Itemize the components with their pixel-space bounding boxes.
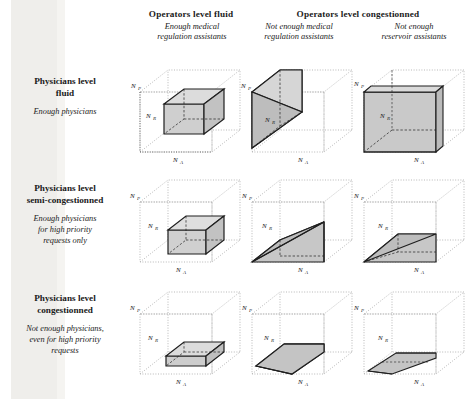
axis-label-na: N <box>172 156 178 164</box>
row-label-semi-title: Physicians level semi-congestionned <box>2 183 128 206</box>
cube-diagram-r2c3: NP NR NA <box>352 166 472 274</box>
cube-diagram-r3c1: NP NR NA <box>128 278 248 386</box>
axis-sub-np: P <box>248 308 252 313</box>
axis-sub-np: P <box>248 196 252 201</box>
column-group-header-congestionned-label: Operators level congestionned <box>243 9 473 20</box>
axis-sub-na: A <box>304 382 309 386</box>
axis-label-na: N <box>175 266 181 274</box>
axis-label-np: N <box>129 192 135 200</box>
axis-sub-na: A <box>182 270 187 274</box>
axis-label-na: N <box>175 378 181 386</box>
diagram-cell-r1c3: NP NR NA <box>352 56 472 164</box>
solid-region-slab <box>166 342 224 366</box>
axis-label-nr: N <box>377 334 383 342</box>
axis-sub-np: P <box>360 196 364 201</box>
axis-label-np: N <box>353 304 359 312</box>
axis-label-nr: N <box>377 222 383 230</box>
solid-region-wedge <box>252 70 302 148</box>
axis-sub-np: P <box>136 196 140 201</box>
axis-label-np: N <box>353 80 359 88</box>
column-subtitle-1: Enough medical regulation assistants <box>136 22 248 42</box>
solid-region-box <box>168 216 224 254</box>
cube-diagram-r3c2: NP NR NA <box>240 278 360 386</box>
row-label-semi-title-line2: semi-congestionned <box>2 195 128 207</box>
axis-label-nr: N <box>264 116 270 124</box>
row-label-congested-sub: Not enough physicians, even for high pri… <box>2 324 128 356</box>
diagram-cell-r3c2: NP NR NA <box>240 278 360 386</box>
axis-sub-np: P <box>136 308 140 313</box>
row-label-congested-title-line2: congestionned <box>2 305 128 317</box>
diagram-cell-r1c2: NP NR NA <box>240 56 360 164</box>
axis-label-na: N <box>297 266 303 274</box>
column-subtitle-2-line1: Not enough medical <box>243 22 355 32</box>
axis-sub-na: A <box>420 270 425 274</box>
axis-label-np: N <box>353 192 359 200</box>
axis-sub-nr: R <box>152 116 156 121</box>
axis-label-nr: N <box>145 112 151 120</box>
axis-sub-np: P <box>360 84 364 89</box>
solid-region-box <box>164 89 224 134</box>
row-label-semi-sub: Enough physicians for high priority requ… <box>2 214 128 246</box>
axis-sub-np: P <box>247 86 251 91</box>
axis-sub-na: A <box>304 160 309 164</box>
column-subtitle-1-line2: regulation assistants <box>136 32 248 42</box>
column-group-header-congestionned: Operators level congestionned <box>243 9 473 20</box>
row-label-congested-sub-line1: Not enough physicians, <box>2 324 128 335</box>
row-label-fluid-sub-line1: Enough physicians <box>2 107 128 118</box>
column-group-header-fluid: Operators level fluid <box>136 9 246 20</box>
row-label-fluid-title: Physicians level fluid <box>2 76 128 99</box>
solid-region-sheet <box>256 344 324 374</box>
axis-sub-na: A <box>182 382 187 386</box>
axis-label-nr: N <box>379 112 385 120</box>
axis-label-na: N <box>413 266 419 274</box>
solid-region-wedge <box>364 234 436 262</box>
axis-sub-na: A <box>420 382 425 386</box>
figure-sheet: Operators level fluid Operators level co… <box>0 0 476 399</box>
axis-sub-nr: R <box>271 120 275 125</box>
diagram-cell-r2c3: NP NR NA <box>352 166 472 274</box>
axis-sub-np: P <box>137 86 141 91</box>
row-label-fluid: Physicians level fluid Enough physicians <box>2 76 128 118</box>
row-label-congested: Physicians level congestionned Not enoug… <box>2 293 128 356</box>
axis-sub-nr: R <box>384 226 388 231</box>
axis-label-nr: N <box>261 222 267 230</box>
column-subtitle-3-line2: reservoir assistants <box>356 32 472 42</box>
row-label-semi-sub-line1: Enough physicians <box>2 214 128 225</box>
cube-diagram-r2c1: NP NR NA <box>128 166 248 274</box>
axis-sub-np: P <box>360 308 364 313</box>
row-label-congested-sub-line2: even for high priority <box>2 335 128 346</box>
column-subtitle-3-line1: Not enough <box>356 22 472 32</box>
diagram-cell-r2c2: NP NR NA <box>240 166 360 274</box>
row-label-congested-sub-line3: requests <box>2 346 128 357</box>
axis-sub-na: A <box>179 160 184 164</box>
row-label-congested-title: Physicians level congestionned <box>2 293 128 316</box>
axis-label-np: N <box>130 82 136 90</box>
row-label-semi: Physicians level semi-congestionned Enou… <box>2 183 128 246</box>
column-subtitle-3: Not enough reservoir assistants <box>356 22 472 42</box>
cube-diagram-r3c3: NP NR NA <box>352 278 472 386</box>
axis-sub-na: A <box>304 270 309 274</box>
axis-label-nr: N <box>147 222 153 230</box>
diagram-cell-r3c3: NP NR NA <box>352 278 472 386</box>
solid-region-sliver <box>368 353 436 374</box>
row-label-fluid-title-line1: Physicians level <box>2 76 128 88</box>
diagram-cell-r1c1: NP NR NA <box>128 56 248 164</box>
row-label-fluid-sub: Enough physicians <box>2 107 128 118</box>
axis-label-np: N <box>129 304 135 312</box>
axis-label-nr: N <box>263 334 269 342</box>
row-label-semi-sub-line3: requests only <box>2 236 128 247</box>
cube-diagram-r1c1: NP NR NA <box>128 56 248 164</box>
diagram-cell-r2c1: NP NR NA <box>128 166 248 274</box>
column-subtitle-1-line1: Enough medical <box>136 22 248 32</box>
row-label-fluid-title-line2: fluid <box>2 88 128 100</box>
axis-label-na: N <box>297 378 303 386</box>
axis-label-na: N <box>413 156 419 164</box>
diagram-cell-r3c1: NP NR NA <box>128 278 248 386</box>
axis-label-np: N <box>241 304 247 312</box>
column-group-header-fluid-label: Operators level fluid <box>136 9 246 20</box>
row-label-congested-title-line1: Physicians level <box>2 293 128 305</box>
axis-label-np: N <box>241 192 247 200</box>
axis-label-np: N <box>240 82 246 90</box>
axis-sub-na: A <box>420 160 425 164</box>
column-subtitle-2: Not enough medical regulation assistants <box>243 22 355 42</box>
